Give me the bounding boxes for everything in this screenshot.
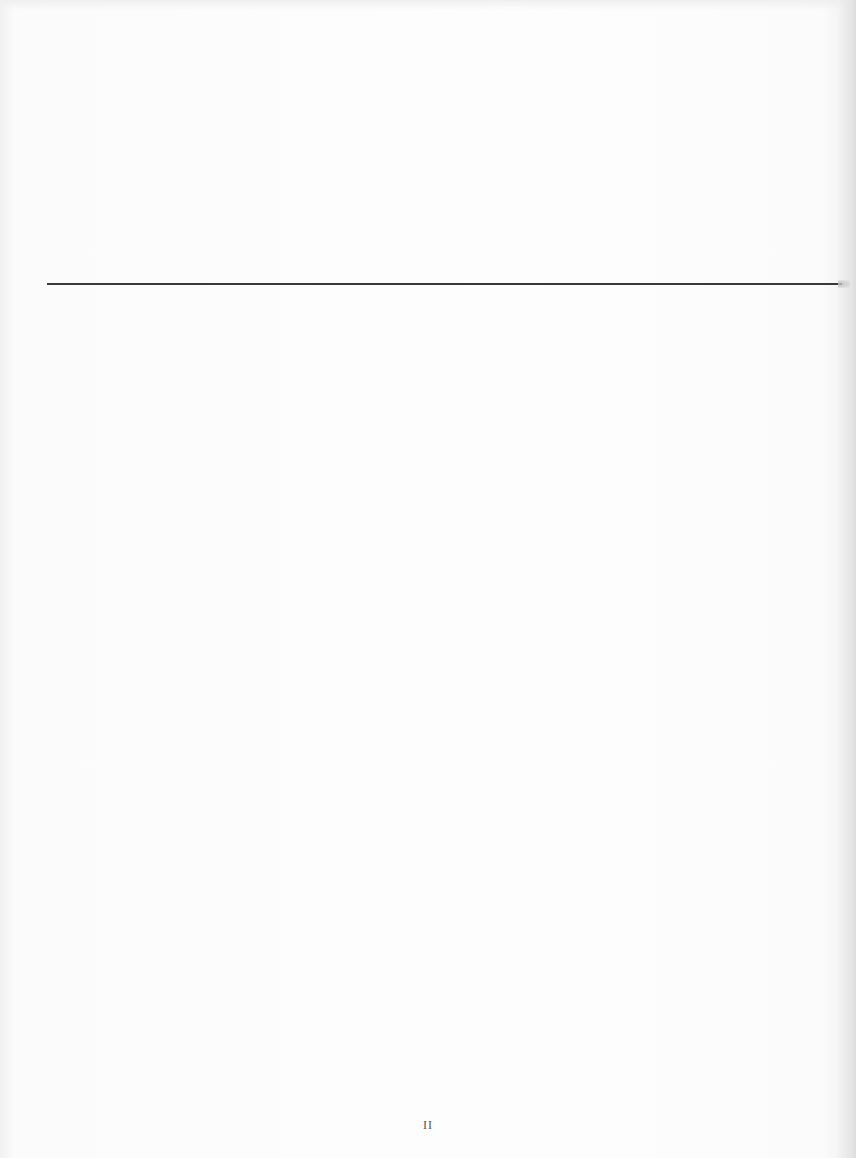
page-number: II: [0, 1118, 856, 1133]
scan-top-shadow: [0, 0, 856, 10]
page-edge-shadow: [838, 0, 856, 1158]
scanned-page: II: [0, 0, 856, 1158]
horizontal-rule: [47, 283, 842, 285]
rule-end-smudge: [838, 280, 850, 288]
